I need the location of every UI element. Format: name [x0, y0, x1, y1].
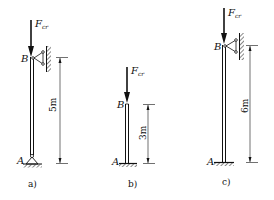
length-label: 6m: [240, 98, 250, 113]
caption: c): [222, 177, 231, 187]
column-buckling-diagram: Fcr B A: [0, 0, 274, 200]
column: [223, 45, 226, 162]
figure-c: Fcr B A 6m c): [206, 7, 258, 187]
wall-pin-support-icon: [32, 46, 51, 72]
force-arrow-icon: [124, 67, 130, 103]
point-b-label: B: [213, 41, 221, 52]
length-label: 5m: [48, 97, 58, 112]
force-label: Fcr: [227, 7, 242, 19]
column: [31, 57, 34, 155]
force-arrow-icon: [221, 8, 227, 44]
force-label: Fcr: [34, 18, 49, 30]
point-b-label: B: [116, 99, 124, 110]
point-b-label: B: [20, 53, 28, 64]
force-arrow-icon: [28, 20, 34, 57]
wall-pin-support-icon: [224, 33, 244, 60]
force-label: Fcr: [130, 65, 145, 77]
fixed-support-icon: [214, 163, 234, 167]
figure-a: Fcr B A: [16, 18, 68, 189]
pinned-support-icon: [23, 154, 42, 167]
fixed-support-icon: [119, 164, 137, 168]
figure-b: Fcr B A 3m b): [111, 65, 155, 189]
column: [126, 104, 129, 163]
point-a-label: A: [16, 155, 24, 166]
caption: a): [28, 179, 37, 189]
point-a-label: A: [206, 156, 214, 167]
caption: b): [128, 179, 137, 189]
length-label: 3m: [138, 125, 148, 140]
point-a-label: A: [111, 156, 119, 167]
